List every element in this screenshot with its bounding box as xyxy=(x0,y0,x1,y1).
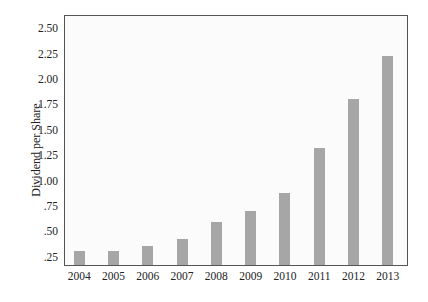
y-tick-label: .75 xyxy=(44,200,58,212)
y-tick-label: 2.25 xyxy=(38,48,58,60)
bar-2013 xyxy=(382,56,393,265)
x-tick-label: 2013 xyxy=(368,270,408,282)
y-tick-label: .25 xyxy=(44,251,58,263)
bar-2008 xyxy=(211,222,222,265)
y-tick-label: 2.00 xyxy=(38,73,58,85)
bar-2009 xyxy=(245,211,256,265)
bar-2012 xyxy=(348,99,359,265)
y-tick-label: 1.25 xyxy=(38,149,58,161)
bar-2004 xyxy=(74,251,85,265)
y-tick-label: 1.50 xyxy=(38,124,58,136)
y-tick-label: 1.00 xyxy=(38,175,58,187)
bar-2011 xyxy=(314,148,325,265)
y-tick-label: .50 xyxy=(44,225,58,237)
y-tick-label: 2.50 xyxy=(38,22,58,34)
bar-2010 xyxy=(279,193,290,265)
bar-2006 xyxy=(142,246,153,265)
y-tick-label: 1.75 xyxy=(38,98,58,110)
bar-2005 xyxy=(108,251,119,265)
bar-2007 xyxy=(177,239,188,265)
